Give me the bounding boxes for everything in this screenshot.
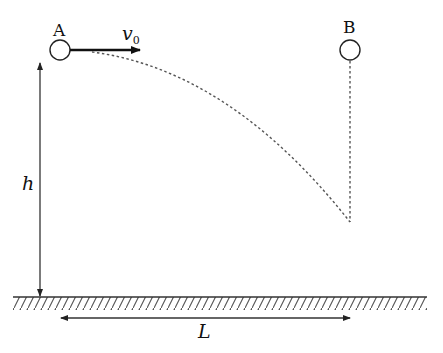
height-dimension: h (22, 63, 40, 296)
velocity-subscript: 0 (133, 34, 140, 47)
velocity-label: v0 (122, 22, 140, 47)
ground-hatching (13, 297, 427, 310)
height-label: h (22, 172, 34, 194)
trajectory-path (92, 52, 350, 222)
distance-label: L (197, 320, 211, 342)
velocity-vector: v0 (70, 22, 140, 50)
ball-a-circle (50, 40, 70, 60)
ball-a: A (50, 20, 70, 60)
distance-dimension: L (61, 318, 350, 342)
ball-b-label: B (343, 17, 356, 37)
ball-b: B (340, 17, 360, 60)
ground (13, 297, 427, 310)
ball-a-label: A (52, 20, 66, 40)
ball-b-circle (340, 40, 360, 60)
projectile-diagram: A v0 B h L (0, 0, 443, 353)
velocity-symbol: v (122, 22, 133, 44)
